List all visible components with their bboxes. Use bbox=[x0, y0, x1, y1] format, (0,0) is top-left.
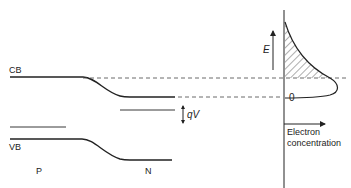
vb-label: VB bbox=[9, 142, 21, 152]
zero-level-label: 0 bbox=[289, 92, 295, 103]
qv-label: qV bbox=[187, 109, 201, 120]
hatched-electron-region bbox=[285, 22, 330, 78]
cb-label: CB bbox=[9, 65, 22, 75]
n-region-label: N bbox=[145, 166, 152, 176]
concentration-label-line2: concentration bbox=[287, 138, 341, 148]
valence-band-line bbox=[10, 139, 172, 160]
pn-junction-diagram: CB VB P N qV E 0 Electron concentration bbox=[0, 0, 351, 188]
qv-arrow-icon bbox=[181, 105, 185, 124]
energy-label: E bbox=[263, 44, 270, 55]
p-region-label: P bbox=[36, 166, 42, 176]
conduction-band-line bbox=[10, 77, 175, 97]
concentration-label-line1: Electron bbox=[287, 127, 320, 137]
